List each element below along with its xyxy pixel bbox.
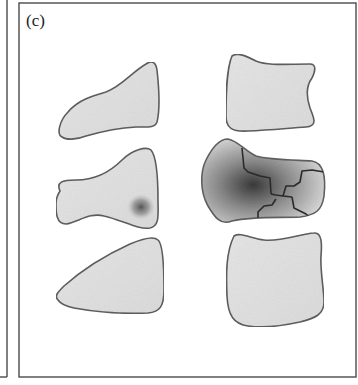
- middle-vertebra-right: [202, 139, 325, 222]
- figure-panel-c: (c): [0, 0, 358, 385]
- fracture-shading: [202, 139, 325, 222]
- panel-label: (c): [26, 11, 45, 30]
- lower-vertebra-right: [227, 233, 324, 327]
- left-column: [56, 62, 164, 313]
- lesion-spot: [127, 194, 155, 220]
- upper-vertebra-left: [59, 62, 159, 139]
- left-panel-edge: [0, 0, 7, 377]
- lower-vertebra-left: [56, 238, 164, 313]
- upper-vertebra-right: [226, 54, 315, 131]
